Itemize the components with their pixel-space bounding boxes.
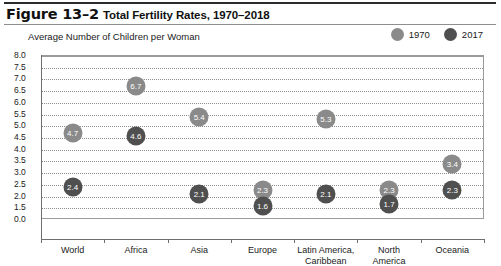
data-point-latin-america-caribbean-2017: 2.1 [316,185,335,204]
gridline-4.0 [41,150,483,151]
y-axis-tick-label: 2.0 [14,191,26,201]
data-point-europe-2017: 1.6 [253,196,272,215]
data-point-africa-2017: 4.6 [126,126,145,145]
y-axis-tick-label: 0.0 [14,214,26,224]
data-point-oceania-1970: 3.4 [443,154,462,173]
y-axis-caption: Average Number of Children per Woman [28,31,200,42]
x-axis-tick [484,239,485,243]
gridline-3.5 [41,161,483,162]
data-point-oceania-2017: 2.3 [443,180,462,199]
plot-area: 4.76.75.42.35.32.33.42.44.62.11.62.11.72… [41,55,484,219]
legend-label-2017: 2017 [462,29,483,40]
y-axis-tick-label: 4.0 [14,144,26,154]
legend-swatch-2017 [444,28,457,41]
y-axis-line [41,55,42,239]
x-axis-label-line: Africa [124,245,147,256]
chart-legend: 19702017 [391,28,483,41]
x-axis-label-africa: Africa [124,245,147,256]
x-axis-label-world: World [61,245,84,256]
gridline-4.5 [41,138,483,139]
data-point-latin-america-caribbean-1970: 5.3 [316,110,335,129]
y-axis-tick-label: 3.5 [14,155,26,165]
x-axis-tick [357,239,358,243]
x-axis-label-line: World [61,245,84,256]
x-axis-label-oceania: Oceania [436,245,470,256]
y-axis-tick-label: 5.5 [14,109,26,119]
y-axis-tick-label: 7.5 [14,62,26,72]
x-axis-label-line: Latin America, [297,245,354,256]
data-point-asia-2017: 2.1 [190,185,209,204]
legend-label-1970: 1970 [409,29,430,40]
y-axis-tick-label: 5.0 [14,120,26,130]
gridline-5.5 [41,115,483,116]
figure-header: Figure 13–2Total Fertility Rates, 1970–2… [0,0,501,26]
x-axis-tick [231,239,232,243]
data-point-north-america-2017: 1.7 [380,194,399,213]
header-top-rule [4,2,496,4]
x-axis-label-north-america: NorthAmerica [373,245,406,266]
y-axis-tick-label: 3.0 [14,167,26,177]
x-axis-label-line: Oceania [436,245,470,256]
legend-swatch-1970 [391,28,404,41]
x-axis-label-latin-america-caribbean: Latin America,Caribbean [297,245,354,266]
y-axis-tick-label: 6.5 [14,85,26,95]
x-axis-label-line: America [373,256,406,266]
x-axis-tick [421,239,422,243]
x-axis-label-europe: Europe [248,245,277,256]
legend-item-2017: 2017 [444,28,483,41]
figure-number: Figure 13–2 [6,6,99,22]
x-axis-tick [294,239,295,243]
gridline-5.0 [41,126,483,127]
gridline-6.5 [41,91,483,92]
data-point-world-2017: 2.4 [63,178,82,197]
x-axis-line [41,239,484,240]
gridline-3.0 [41,173,483,174]
gridline-8.0 [41,56,483,57]
x-axis-label-line: Asia [190,245,208,256]
x-axis-label-line: North [373,245,406,256]
figure-title-line: Figure 13–2Total Fertility Rates, 1970–2… [6,5,270,23]
x-axis-tick [104,239,105,243]
x-axis-label-asia: Asia [190,245,208,256]
y-axis-tick-label: 2.5 [14,179,26,189]
x-axis-label-line: Caribbean [297,256,354,266]
x-axis-tick [168,239,169,243]
data-point-world-1970: 4.7 [63,124,82,143]
x-axis-label-line: Europe [248,245,277,256]
y-axis-tick-label: 4.5 [14,132,26,142]
gridline-7.0 [41,79,483,80]
y-axis-tick-label: 8.0 [14,50,26,60]
legend-item-1970: 1970 [391,28,430,41]
y-axis-tick-label: 1.5 [14,202,26,212]
y-axis-tick-label: 6.0 [14,97,26,107]
header-bottom-rule [4,24,496,25]
gridline-6.0 [41,103,483,104]
y-axis-tick-label: 7.0 [14,73,26,83]
data-point-africa-1970: 6.7 [126,77,145,96]
x-axis-tick [41,239,42,243]
chart-container: Average Number of Children per Woman 197… [0,26,501,255]
data-point-asia-1970: 5.4 [190,107,209,126]
figure-title: Total Fertility Rates, 1970–2018 [103,9,270,21]
gridline-7.5 [41,68,483,69]
